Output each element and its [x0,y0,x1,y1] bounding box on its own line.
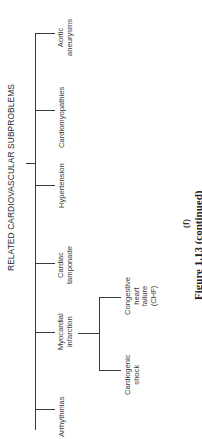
subfigure-label: (f) [181,219,191,228]
node-cardiac-tamponade: Cardiactamponade [57,246,74,284]
branch-mi [35,332,55,333]
branch-shock [99,370,121,371]
node-myocardial-infarction: Myocardialinfarction [57,313,74,350]
branch-aortic [35,33,55,34]
branch-tamponade [35,263,55,264]
mi-stem [78,333,99,334]
branch-hypertension [35,185,55,186]
figure-caption: Figure 1.13 (continued) [192,191,202,301]
diagram-canvas: RELATED CARDIOVASCULAR SUBPROBLEMS Aorti… [0,0,202,439]
node-aortic-aneurysms: Aorticaneurysms [57,19,74,56]
node-congestive-heart-failure: Congestiveheartfailure(CHF) [124,277,158,315]
node-arrhythmias: Arrhythmias [58,396,67,437]
branch-cardiomyopathies [35,110,55,111]
node-cardiogenic-shock: Cardiogenicshock [124,354,141,395]
node-hypertension: Hypertension [58,163,67,208]
diagram-title: RELATED CARDIOVASCULAR SUBPROBLEMS [6,84,16,271]
branch-arrhythmias [35,409,55,410]
node-cardiomyopathies: Cardiomyopathies [58,87,67,148]
branch-chf [99,297,121,298]
main-bus [35,33,36,430]
mi-bus [99,297,100,370]
